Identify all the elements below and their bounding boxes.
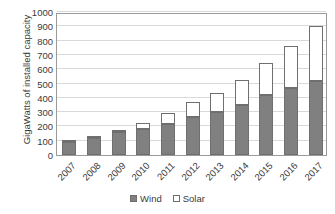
legend-label-solar: Solar xyxy=(183,193,205,204)
bar-group-2007[interactable] xyxy=(62,12,76,155)
bar-segment-solar-2015[interactable] xyxy=(259,63,273,95)
bars-layer xyxy=(57,14,326,155)
x-tick-label-2013: 2013 xyxy=(200,160,226,186)
x-tick-label-2012: 2012 xyxy=(175,160,201,186)
bar-segment-solar-2011[interactable] xyxy=(161,113,175,123)
y-tick-label-200: 200 xyxy=(13,122,53,132)
bar-segment-wind-2010[interactable] xyxy=(136,129,150,155)
bar-group-2012[interactable] xyxy=(186,12,200,155)
bar-group-2009[interactable] xyxy=(112,12,126,155)
bar-segment-wind-2007[interactable] xyxy=(62,142,76,155)
bar-segment-solar-2013[interactable] xyxy=(210,93,224,112)
bar-group-2015[interactable] xyxy=(259,12,273,155)
x-tick-label-2010: 2010 xyxy=(126,160,152,186)
y-tick-label-1000: 1000 xyxy=(13,8,53,18)
y-tick-label-100: 100 xyxy=(13,137,53,147)
y-tick-label-700: 700 xyxy=(13,51,53,61)
filled-gray-square-icon xyxy=(130,195,137,202)
bar-segment-wind-2013[interactable] xyxy=(210,112,224,155)
bar-group-2010[interactable] xyxy=(136,12,150,155)
y-tick-label-400: 400 xyxy=(13,94,53,104)
bar-segment-wind-2012[interactable] xyxy=(186,117,200,155)
bar-segment-solar-2016[interactable] xyxy=(284,46,298,88)
bar-segment-solar-2017[interactable] xyxy=(309,26,323,81)
y-tick-label-900: 900 xyxy=(13,22,53,32)
y-tick-label-600: 600 xyxy=(13,65,53,75)
legend-entry-solar[interactable]: Solar xyxy=(173,193,205,204)
bar-segment-wind-2008[interactable] xyxy=(87,138,101,155)
bar-segment-wind-2009[interactable] xyxy=(112,132,126,155)
bar-group-2017[interactable] xyxy=(309,12,323,155)
bar-segment-wind-2011[interactable] xyxy=(161,124,175,155)
legend-label-wind: Wind xyxy=(140,193,162,204)
y-tick-label-800: 800 xyxy=(13,37,53,47)
x-tick-label-2015: 2015 xyxy=(249,160,275,186)
x-tick-label-2009: 2009 xyxy=(101,160,127,186)
bar-segment-wind-2014[interactable] xyxy=(235,105,249,155)
y-tick-label-0: 0 xyxy=(13,151,53,161)
bar-group-2011[interactable] xyxy=(161,12,175,155)
bar-segment-wind-2016[interactable] xyxy=(284,88,298,155)
bar-group-2014[interactable] xyxy=(235,12,249,155)
bar-segment-solar-2009[interactable] xyxy=(112,130,126,132)
legend-entry-wind[interactable]: Wind xyxy=(130,193,162,204)
x-tick-label-2016: 2016 xyxy=(274,160,300,186)
bar-group-2008[interactable] xyxy=(87,12,101,155)
y-tick-label-300: 300 xyxy=(13,108,53,118)
x-tick-label-2011: 2011 xyxy=(150,160,176,186)
x-tick-label-2014: 2014 xyxy=(224,160,250,186)
x-tick-label-2017: 2017 xyxy=(298,160,324,186)
empty-white-square-icon xyxy=(173,195,180,202)
bar-segment-solar-2010[interactable] xyxy=(136,123,150,129)
bar-segment-solar-2007[interactable] xyxy=(62,140,76,142)
bar-group-2016[interactable] xyxy=(284,12,298,155)
x-tick-label-2008: 2008 xyxy=(77,160,103,186)
chart-legend: WindSolar xyxy=(0,193,335,204)
stacked-bar-chart: GigaWatts of installed capacity 01002003… xyxy=(0,0,335,214)
plot-area xyxy=(56,13,327,156)
bar-segment-wind-2015[interactable] xyxy=(259,95,273,155)
bar-segment-solar-2014[interactable] xyxy=(235,80,249,105)
bar-segment-solar-2012[interactable] xyxy=(186,102,200,116)
x-tick-label-2007: 2007 xyxy=(52,160,78,186)
bar-segment-wind-2017[interactable] xyxy=(309,81,323,155)
y-tick-label-500: 500 xyxy=(13,80,53,90)
bar-group-2013[interactable] xyxy=(210,12,224,155)
bar-segment-solar-2008[interactable] xyxy=(87,136,101,138)
